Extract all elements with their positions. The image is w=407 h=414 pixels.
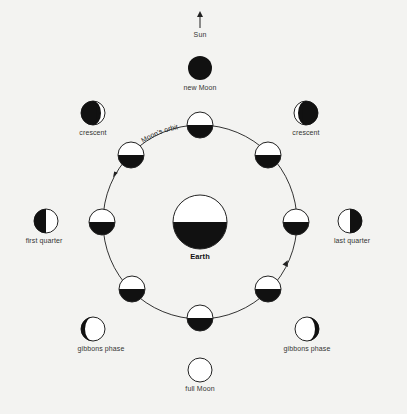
last-quarter-label: last quarter [334,237,370,244]
last-quarter-icon [338,209,362,233]
orbit-moon-upper-left [118,142,144,168]
first-quarter-label: first quarter [26,237,63,244]
gibbous-left-label: gibbons phase [78,345,125,352]
full-moon-icon [188,358,212,382]
orbit-moon-bottom [187,305,213,331]
diagram-canvas: Moon's orbit [0,0,407,414]
sun-label: Sun [194,31,207,38]
orbit-direction-arrow-icon [112,171,118,178]
new-moon-icon [188,56,212,80]
orbit-moon-lower-right [255,276,281,302]
crescent-left-icon [81,101,105,125]
full-moon-label: full Moon [185,385,214,392]
gibbous-right-label: gibbons phase [284,345,331,352]
new-moon-label: new Moon [183,84,216,91]
orbit-moon-right [283,209,309,235]
orbit-moon-upper-right [255,142,281,168]
earth-icon [173,195,227,249]
gibbous-left-icon [81,317,105,341]
orbit-label: Moon's orbit [140,123,179,144]
first-quarter-icon [34,209,58,233]
crescent-right-icon [294,101,318,125]
orbit-moon-left [89,209,115,235]
sun-arrow-icon [197,11,203,28]
orbit-moon-top [187,112,213,138]
earth-label: Earth [190,252,210,261]
moon-phases-diagram: Moon's orbit Sun new Moon crescent cresc… [0,0,407,414]
gibbous-right-icon [295,317,319,341]
crescent-left-label: crescent [79,129,106,136]
crescent-right-label: crescent [292,129,319,136]
orbit-moon-lower-left [119,276,145,302]
